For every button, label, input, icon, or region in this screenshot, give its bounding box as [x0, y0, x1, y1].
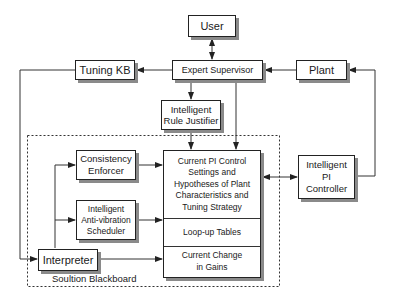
section1-line4: Characteristics and	[176, 190, 249, 202]
consistency-enforcer-node: Consistency Enforcer	[76, 150, 136, 180]
pi-controller-line1: Intelligent	[306, 159, 347, 171]
expert-supervisor-node: Expert Supervisor	[172, 60, 263, 80]
lookup-tables-section: Loop-up Tables	[164, 218, 260, 246]
consistency-enforcer-line2: Enforcer	[88, 165, 124, 177]
interpreter-node: Interpreter	[38, 249, 98, 271]
consistency-enforcer-line1: Consistency	[80, 153, 132, 165]
anti-vibration-scheduler-node: Intelligent Anti-vibration Scheduler	[76, 200, 136, 240]
pi-controller-line3: Controller	[306, 183, 347, 195]
user-node: User	[188, 15, 236, 37]
anti-vibration-line2: Anti-vibration	[81, 215, 131, 226]
section3-line2: in Gains	[196, 262, 227, 274]
gain-change-section: Current Change in Gains	[164, 246, 260, 276]
section3-line1: Current Change	[182, 250, 242, 262]
blackboard-main-node: Current PI Control Settings and Hypothes…	[163, 150, 261, 278]
section1-line1: Current PI Control	[178, 156, 247, 168]
section1-line3: Hypotheses of Plant	[174, 179, 250, 191]
rule-justifier-line1: Intelligent	[171, 104, 212, 115]
control-settings-section: Current PI Control Settings and Hypothes…	[164, 151, 260, 218]
anti-vibration-line3: Scheduler	[87, 226, 125, 237]
plant-node: Plant	[296, 60, 347, 80]
tuning-kb-node: Tuning KB	[75, 60, 135, 80]
pi-controller-line2: PI	[322, 171, 331, 183]
solution-blackboard-label: Soultion Blackboard	[52, 273, 137, 284]
section1-line2: Settings and	[188, 167, 235, 179]
anti-vibration-line1: Intelligent	[88, 204, 124, 215]
pi-controller-node: Intelligent PI Controller	[298, 155, 355, 199]
plant-label: Plant	[309, 65, 334, 76]
tuning-kb-label: Tuning KB	[80, 65, 131, 76]
user-label: User	[200, 21, 223, 32]
rule-justifier-node: Intelligent Rule Justifier	[161, 100, 221, 130]
architecture-diagram: User Expert Supervisor Tuning KB Plant I…	[0, 0, 394, 305]
section2-line1: Loop-up Tables	[183, 227, 241, 239]
rule-justifier-line2: Rule Justifier	[164, 115, 219, 126]
expert-supervisor-label: Expert Supervisor	[182, 65, 254, 76]
interpreter-label: Interpreter	[43, 255, 94, 266]
section1-line5: Tuning Strategy	[182, 202, 242, 214]
